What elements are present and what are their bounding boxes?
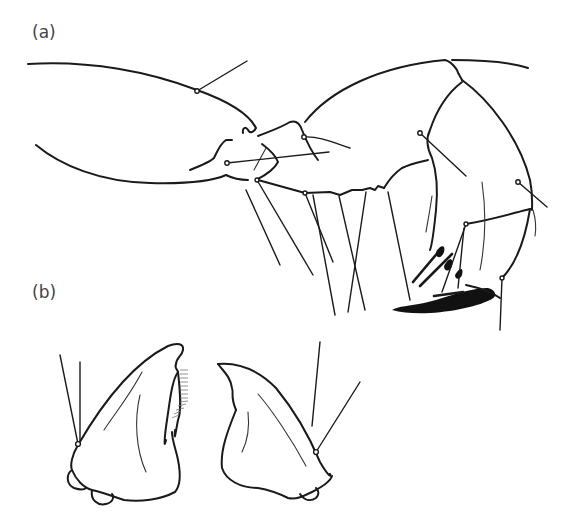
panel-a-drawing: [28, 60, 547, 330]
panel-b-left-structure: [60, 344, 188, 504]
figure-illustration: [0, 0, 572, 526]
panel-b-right-structure: [218, 342, 360, 500]
